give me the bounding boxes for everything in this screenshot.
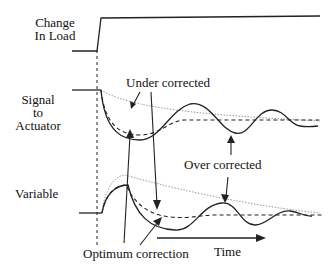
time-label: Time [214,245,241,258]
signal-label: Signal to Actuator [8,93,68,132]
arrow-head-icon [153,200,161,210]
signal-label-line3: Actuator [8,119,68,132]
under-corrected-arrow-2 [151,92,157,205]
optimum-arrow-2 [140,222,158,245]
variable-label: Variable [15,187,58,200]
signal-over-corrected-curve [101,90,318,140]
arrow-head-icon [126,129,134,138]
load-label-line2: In Load [20,29,90,42]
under-corrected-label: Under corrected [126,76,210,89]
optimum-correction-label: Optimum correction [83,247,189,260]
over-corrected-arrow-2 [226,177,228,197]
arrow-head-icon [227,135,235,143]
load-label: Change In Load [20,16,90,42]
load-step-line [72,16,320,51]
over-corrected-label: Over corrected [184,158,262,171]
time-arrow-head-icon [256,234,266,242]
variable-over-corrected-curve [102,185,312,230]
variable-optimum-curve [102,185,322,218]
variable-under-corrected-curve [102,175,320,213]
